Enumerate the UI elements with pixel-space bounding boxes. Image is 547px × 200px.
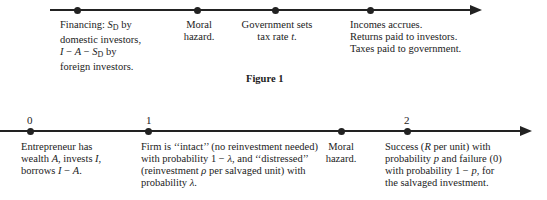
- financing-label: Financing: S_D by Financing: SD by domes…: [60, 19, 141, 73]
- label-line: the salvaged investment.: [385, 177, 502, 189]
- label-line: Incomes accrues.: [350, 19, 461, 31]
- date0-label: Entrepreneur has wealth A, invests I, bo…: [21, 141, 101, 177]
- tick-2: 2: [404, 114, 410, 126]
- timeline-2-point-moral-hazard: [338, 128, 345, 135]
- tick-0: 0: [27, 114, 33, 126]
- figure-1-caption: Figure 1: [246, 73, 283, 84]
- timeline-1-point-tax: [272, 7, 279, 14]
- label-line: domestic investors,: [60, 34, 141, 46]
- label-line: hazard.: [180, 31, 218, 43]
- timeline-2-axis: [0, 130, 522, 132]
- date2-label: Success (R per unit) with probability p …: [385, 141, 502, 189]
- timeline-1-point-financing: [74, 7, 81, 14]
- date1-label: Firm is ‘‘intact’’ (no reinvestment need…: [141, 141, 318, 189]
- tick-1: 1: [146, 114, 152, 126]
- moral-hazard-label-2: Moral hazard.: [322, 141, 360, 165]
- label-line: Moral: [180, 19, 218, 31]
- timeline-1-point-moral-hazard: [194, 7, 201, 14]
- timeline-1-axis: [50, 9, 472, 11]
- label-line: hazard.: [322, 153, 360, 165]
- timeline-1-point-incomes: [367, 7, 374, 14]
- timeline-1-arrowhead: [470, 5, 482, 15]
- label-line: Returns paid to investors.: [350, 31, 461, 43]
- timeline-2-point-0: [27, 128, 34, 135]
- tax-label: Government sets tax rate t.: [237, 19, 317, 43]
- timeline-2-arrowhead: [520, 126, 532, 136]
- label-line: Taxes paid to government.: [350, 43, 461, 55]
- moral-hazard-label-1: Moral hazard.: [180, 19, 218, 43]
- label-line: Government sets: [237, 19, 317, 31]
- timeline-2-point-1: [145, 128, 152, 135]
- label-line: Moral: [322, 141, 360, 153]
- incomes-label: Incomes accrues. Returns paid to investo…: [350, 19, 461, 55]
- label-line: foreign investors.: [60, 61, 141, 73]
- timeline-2-point-2: [404, 128, 411, 135]
- label-line: Entrepreneur has: [21, 141, 101, 153]
